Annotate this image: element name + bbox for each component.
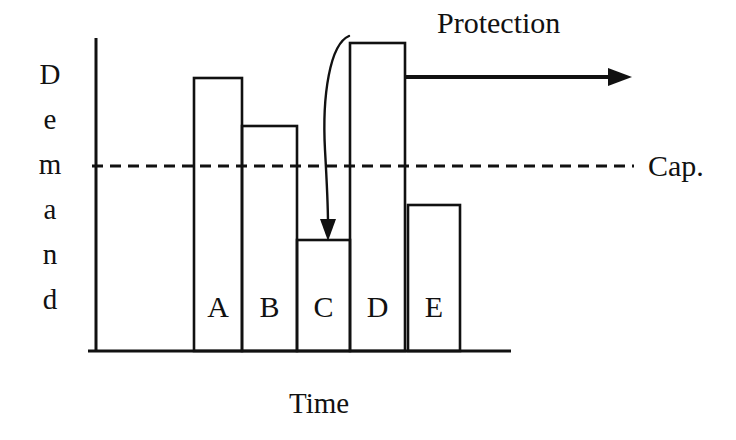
bar-E [408, 205, 460, 351]
y-axis-label-letter-2: m [28, 142, 72, 187]
y-axis-label-letter-0: D [28, 52, 72, 97]
y-axis-label-letter-3: a [28, 187, 72, 232]
capacity-label: Cap. [648, 151, 704, 181]
reallocation-curved-arrow [320, 36, 349, 241]
bar-label-B: B [242, 292, 297, 322]
y-axis-label-letter-5: d [28, 277, 72, 322]
bar-label-C: C [297, 292, 350, 322]
chart-canvas [0, 0, 736, 440]
protection-demand-figure: D e m a n d A B C D E Protection Cap. Ti… [0, 0, 736, 440]
protection-arrow [406, 68, 632, 86]
y-axis-label: D e m a n d [28, 52, 72, 322]
bar-label-D: D [350, 292, 405, 322]
bar-label-E: E [408, 292, 460, 322]
protection-label: Protection [437, 8, 560, 38]
y-axis-label-letter-4: n [28, 232, 72, 277]
bar-label-A: A [194, 292, 242, 322]
x-axis-label: Time [289, 389, 349, 418]
y-axis-label-letter-1: e [28, 97, 72, 142]
